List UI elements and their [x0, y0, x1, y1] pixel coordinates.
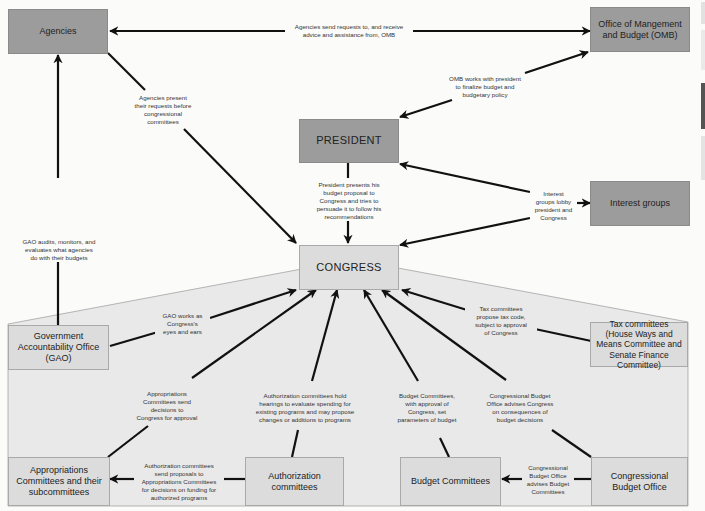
edge-label-appropriations-congress: Appropriations Committees send decisions…	[130, 390, 204, 422]
edge-label-authorization-appropriations: Authorization committees send proposals …	[134, 462, 224, 502]
edge-label-gao-agencies: GAO audits, monitors, and evaluates what…	[14, 238, 104, 262]
edge-label-gao-congress: GAO works as Congress's eyes and ears	[155, 312, 210, 336]
arrow-interest-congress	[400, 218, 530, 245]
edge-label-authorization-congress: Authorization committees hold hearings t…	[252, 392, 358, 424]
node-authorization: Authorization committees	[245, 457, 344, 506]
node-omb: Office of Mangement and Budget (OMB)	[590, 7, 690, 52]
edge-label-interest-groups: Interest groups lobby president and Cong…	[530, 190, 577, 222]
node-president: PRESIDENT	[299, 119, 399, 163]
node-budget-committees-label: Budget Committees	[411, 476, 490, 487]
node-gao-label: Government Accountability Office (GAO)	[13, 331, 104, 363]
node-tax-committees: Tax committees (House Ways and Means Com…	[590, 322, 688, 367]
node-cbo-label: Congressional Budget Office	[596, 471, 683, 493]
page-edge-strip-light	[701, 136, 705, 180]
edge-label-agencies-congress: Agencies present their requests before c…	[128, 94, 198, 126]
edge-label-omb-president: OMB works with president to finalize bud…	[440, 75, 530, 99]
node-tax-committees-label: Tax committees (House Ways and Means Com…	[595, 319, 683, 370]
node-congress: CONGRESS	[299, 245, 399, 290]
node-omb-label: Office of Mangement and Budget (OMB)	[595, 19, 685, 41]
node-interest-groups-label: Interest groups	[610, 198, 670, 209]
node-appropriations: Appropriations Committees and their subc…	[8, 457, 110, 506]
node-authorization-label: Authorization committees	[250, 471, 339, 493]
arrow-agencies-congress-b	[184, 129, 296, 243]
arrow-agencies-congress-a	[108, 53, 145, 90]
page-edge-strip-dark	[701, 83, 705, 129]
node-congress-label: CONGRESS	[316, 261, 381, 274]
edge-label-cbo-budget: Congressional Budget Office advises Budg…	[522, 464, 574, 496]
edge-label-agencies-omb: Agencies send requests to, and receive a…	[285, 23, 413, 39]
arrow-omb-president-down	[400, 100, 452, 117]
edge-label-cbo-congress: Congressional Budget Office advises Cong…	[480, 392, 560, 424]
node-agencies-label: Agencies	[39, 26, 76, 37]
node-president-label: PRESIDENT	[316, 134, 382, 147]
arrow-omb-president-up	[525, 52, 588, 73]
edge-label-budget-congress: Budget Committees, with approval of Cong…	[394, 392, 460, 424]
page-edge-strip-light	[701, 2, 705, 24]
edge-label-tax-congress: Tax committees propose tax code, subject…	[465, 305, 537, 337]
congress-funnel	[8, 268, 688, 506]
node-cbo: Congressional Budget Office	[591, 457, 688, 506]
node-gao: Government Accountability Office (GAO)	[8, 325, 109, 370]
node-budget-committees: Budget Committees	[400, 457, 501, 506]
node-agencies: Agencies	[8, 9, 108, 54]
node-interest-groups: Interest groups	[590, 181, 690, 226]
page-edge-strip-light	[701, 30, 705, 70]
node-appropriations-label: Appropriations Committees and their subc…	[13, 465, 105, 497]
arrow-interest-president	[400, 164, 530, 192]
edge-label-president-congress: President presents his budget proposal t…	[308, 181, 390, 221]
